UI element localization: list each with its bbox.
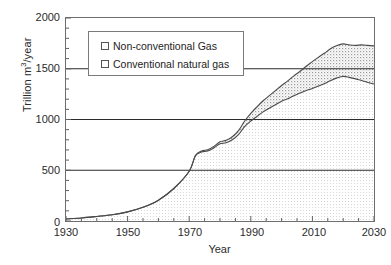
legend-label-conventional: Conventional natural gas: [113, 58, 229, 70]
x-tick-1950: 1950: [105, 226, 151, 238]
y-tick-1500: 1500: [6, 63, 60, 73]
x-tick-2030: 2030: [351, 226, 391, 238]
x-tick-1990: 1990: [229, 226, 275, 238]
chart-legend: Non-conventional Gas Conventional natura…: [88, 31, 244, 76]
x-tick-2010: 2010: [291, 226, 337, 238]
legend-item-conventional: Conventional natural gas: [101, 55, 243, 73]
legend-swatch-nonconventional-icon: [101, 42, 109, 50]
legend-swatch-conventional-icon: [101, 60, 109, 68]
y-axis-ticks: [66, 18, 71, 221]
x-axis-title-text: Year: [208, 243, 230, 255]
x-tick-1970: 1970: [167, 226, 213, 238]
y-tick-1000: 1000: [6, 114, 60, 124]
y-tick-500: 500: [6, 165, 60, 175]
y-tick-2000: 2000: [6, 12, 60, 22]
legend-item-nonconventional: Non-conventional Gas: [101, 37, 243, 55]
x-axis-title: Year: [0, 243, 391, 255]
gas-production-chart: Trillion m3/year 2000 1500 1000 500 0: [0, 0, 391, 265]
x-tick-1930: 1930: [43, 226, 89, 238]
area-conventional-gas: [66, 76, 374, 221]
legend-label-nonconventional: Non-conventional Gas: [113, 40, 217, 52]
